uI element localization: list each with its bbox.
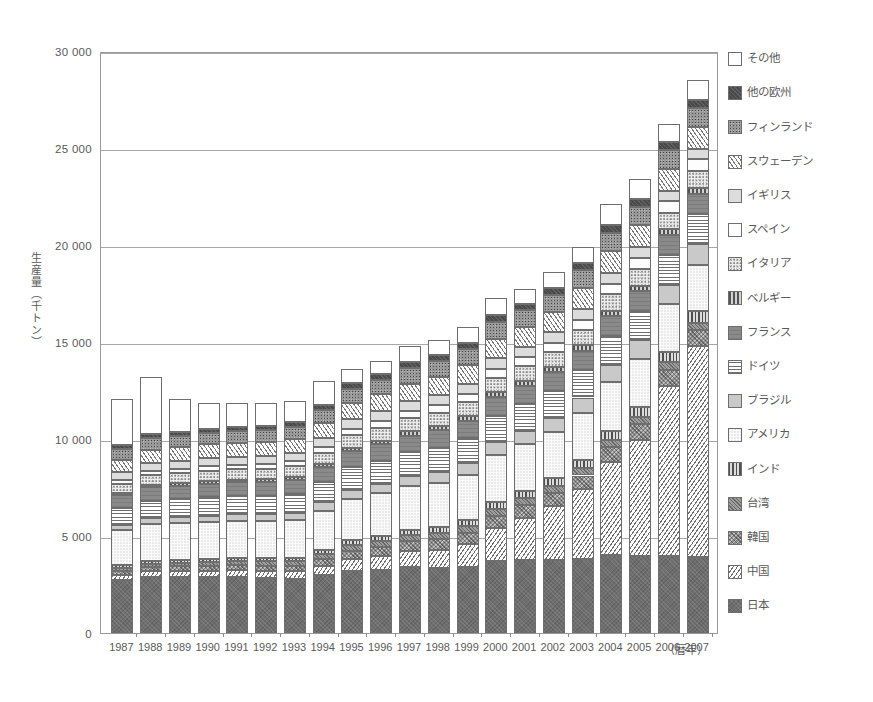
bar-segment	[370, 547, 392, 556]
bar-segment	[226, 521, 248, 558]
bar-segment	[629, 556, 651, 633]
bar-segment	[600, 225, 622, 233]
bar-segment	[428, 405, 450, 413]
bar-segment	[284, 571, 306, 579]
bar-segment	[514, 498, 536, 505]
legend-item[interactable]: イギリス	[728, 187, 791, 205]
bar-segment	[457, 394, 479, 402]
legend-item[interactable]: フィンランド	[728, 118, 813, 136]
bar-segment	[111, 493, 133, 496]
bar-segment	[140, 561, 162, 564]
bar-segment	[572, 489, 594, 559]
bar-segment	[313, 381, 335, 405]
bar-segment	[140, 501, 162, 518]
y-axis-title: 生産量（千トン）	[28, 252, 44, 348]
bar-segment	[226, 431, 248, 443]
bar-segment	[370, 421, 392, 428]
legend-item[interactable]: イタリア	[728, 255, 791, 273]
bar-segment	[514, 518, 536, 561]
bar-segment	[600, 336, 622, 365]
bar-segment	[284, 422, 306, 427]
bar-segment	[658, 370, 680, 386]
y-axis: 05 00010 00015 00020 00025 00030 000	[0, 0, 100, 702]
bar-segment	[140, 567, 162, 571]
legend-item[interactable]: 中国	[728, 563, 769, 581]
bar-segment	[313, 438, 335, 447]
legend-item[interactable]: 台湾	[728, 495, 769, 513]
bar-segment	[111, 508, 133, 524]
bar-segment	[658, 229, 680, 235]
bar-segment	[255, 479, 277, 482]
legend-item[interactable]: スペイン	[728, 221, 790, 239]
legend-item[interactable]: ブラジル	[728, 392, 791, 410]
x-axis-tick	[712, 633, 713, 637]
bar-segment	[600, 382, 622, 431]
bar-segment	[313, 502, 335, 510]
bar-segment	[514, 357, 536, 366]
bar-stack	[284, 382, 306, 633]
bar-segment	[457, 416, 479, 420]
x-axis-tick	[136, 633, 137, 637]
bar-segment	[399, 431, 421, 435]
bar-segment	[111, 399, 133, 446]
bar-segment	[284, 453, 306, 461]
bar-segment	[543, 352, 565, 367]
bar-segment	[687, 265, 709, 312]
legend-item[interactable]: 韓国	[728, 529, 769, 547]
x-axis-tick	[280, 633, 281, 637]
bar-stack	[111, 408, 133, 633]
bar-segment	[341, 369, 363, 383]
bar-segment	[658, 304, 680, 352]
bar-stack	[428, 307, 450, 633]
legend-item[interactable]: スウェーデン	[728, 153, 813, 171]
bar-segment	[198, 471, 220, 481]
bar-segment	[514, 386, 536, 404]
legend-item-label: フランス	[747, 327, 791, 339]
x-axis-tick	[625, 633, 626, 637]
legend-item[interactable]: ベルギー	[728, 289, 791, 307]
bar-segment	[140, 487, 162, 500]
legend-item[interactable]: その他	[728, 50, 780, 68]
bar-segment	[169, 486, 191, 499]
bar-segment	[198, 403, 220, 428]
legend-item[interactable]: フランス	[728, 324, 791, 342]
x-axis-tick-label: 1998	[426, 641, 450, 653]
bar-segment	[485, 528, 507, 561]
bar-segment	[687, 188, 709, 194]
x-axis-tick	[453, 633, 454, 637]
bar-segment	[428, 413, 450, 427]
bar-segment	[428, 340, 450, 356]
bar-segment	[198, 433, 220, 445]
bar-segment	[629, 258, 651, 269]
x-axis-tick-label: 1992	[253, 641, 277, 653]
bar-segment	[370, 536, 392, 541]
bar-segment	[313, 464, 335, 467]
bar-segment	[658, 201, 680, 212]
bar-segment	[485, 502, 507, 509]
legend-item[interactable]: アメリカ	[728, 426, 790, 444]
bar-segment	[284, 427, 306, 439]
bar-segment	[140, 485, 162, 488]
bar-segment	[341, 545, 363, 551]
bar-segment	[341, 451, 363, 467]
bar-stack	[687, 80, 709, 633]
bar-segment	[370, 411, 392, 421]
bar-segment	[428, 448, 450, 472]
legend-item[interactable]: 他の欧州	[728, 84, 791, 102]
bar-segment	[255, 561, 277, 565]
legend-item[interactable]: 日本	[728, 597, 769, 615]
legend-item[interactable]: ドイツ	[728, 358, 780, 376]
bar-segment	[514, 381, 536, 386]
bar-segment	[111, 530, 133, 565]
x-axis-tick-label: 1997	[397, 641, 421, 653]
bar-segment	[485, 339, 507, 358]
bar-segment	[198, 466, 220, 471]
bar-segment	[399, 486, 421, 530]
legend-item[interactable]: インド	[728, 460, 780, 478]
bar-segment	[370, 361, 392, 374]
bar-segment	[543, 391, 565, 418]
bar-segment	[485, 509, 507, 516]
x-axis-tick-label: 2004	[598, 641, 622, 653]
bar-segment	[111, 449, 133, 460]
bar-segment	[572, 345, 594, 350]
